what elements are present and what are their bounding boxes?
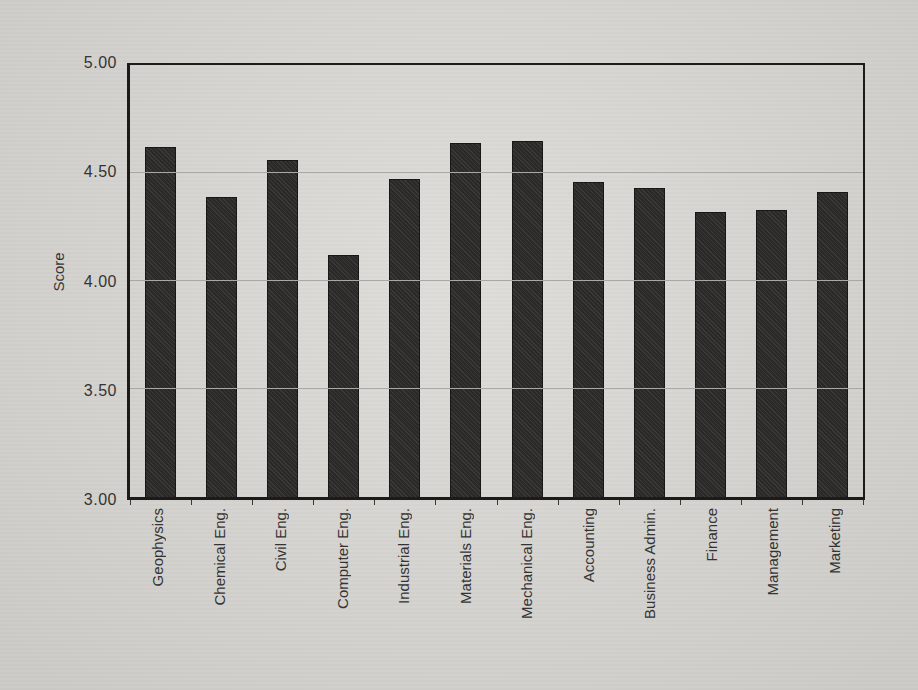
- x-axis-label: Marketing: [827, 508, 842, 574]
- y-tick-label: 5.00: [84, 54, 117, 72]
- bar-slot: [802, 65, 863, 497]
- y-tick-label: 4.00: [84, 273, 117, 291]
- x-axis-label: Industrial Eng.: [396, 508, 411, 604]
- bar-computer-eng: [328, 255, 359, 497]
- x-axis-tick: [558, 500, 559, 505]
- bar-slot: [435, 65, 496, 497]
- x-axis-label: Business Admin.: [642, 508, 657, 619]
- bar-finance: [695, 212, 726, 497]
- x-axis-label: Finance: [704, 508, 719, 561]
- gridline: [130, 280, 863, 281]
- gridline: [130, 388, 863, 389]
- x-axis-tick: [863, 500, 864, 505]
- bar-accounting: [573, 182, 604, 497]
- bar-materials-eng: [450, 143, 481, 497]
- x-axis-label: Civil Eng.: [273, 508, 288, 571]
- x-axis-tick: [619, 500, 620, 505]
- x-axis-label: Management: [765, 508, 780, 596]
- bar-geophysics: [145, 147, 176, 497]
- x-axis-tick: [191, 500, 192, 505]
- x-axis-tick: [313, 500, 314, 505]
- x-axis-tick: [374, 500, 375, 505]
- bar-slot: [252, 65, 313, 497]
- bar-slot: [741, 65, 802, 497]
- y-tick-label: 4.50: [84, 163, 117, 181]
- x-label-slot: Computer Eng.: [312, 508, 374, 673]
- bar-civil-eng: [267, 160, 298, 497]
- bar-business-admin: [634, 188, 665, 497]
- x-axis-label: Accounting: [581, 508, 596, 582]
- x-label-slot: Marketing: [804, 508, 866, 673]
- y-tick-label: 3.50: [84, 382, 117, 400]
- y-tick-label: 3.00: [84, 491, 117, 509]
- bar-chemical-eng: [206, 197, 237, 497]
- x-label-slot: Industrial Eng.: [373, 508, 435, 673]
- x-axis-label: Materials Eng.: [458, 508, 473, 604]
- x-label-slot: Management: [742, 508, 804, 673]
- x-label-slot: Accounting: [558, 508, 620, 673]
- x-label-slot: Finance: [681, 508, 743, 673]
- x-label-slot: Civil Eng.: [250, 508, 312, 673]
- bar-marketing: [817, 192, 848, 497]
- x-label-slot: Mechanical Eng.: [496, 508, 558, 673]
- bar-slot: [558, 65, 619, 497]
- plot-area: [127, 63, 865, 500]
- x-label-slot: Chemical Eng.: [189, 508, 251, 673]
- bar-slot: [313, 65, 374, 497]
- x-axis-tick: [802, 500, 803, 505]
- bar-slot: [191, 65, 252, 497]
- x-axis-label: Chemical Eng.: [212, 508, 227, 606]
- bar-slot: [374, 65, 435, 497]
- x-label-slot: Business Admin.: [619, 508, 681, 673]
- y-axis: 5.004.504.003.503.00: [55, 63, 117, 500]
- bar-industrial-eng: [389, 179, 420, 497]
- bar-slot: [496, 65, 557, 497]
- gridline: [130, 172, 863, 173]
- x-label-slot: Geophysics: [127, 508, 189, 673]
- x-axis-label: Computer Eng.: [335, 508, 350, 609]
- scanned-page-background: Score 5.004.504.003.503.00 GeophysicsChe…: [0, 0, 918, 690]
- x-axis-tick: [435, 500, 436, 505]
- bar-mechanical-eng: [512, 141, 543, 497]
- x-axis-tick: [130, 500, 131, 505]
- x-axis-tick: [680, 500, 681, 505]
- x-axis-tick: [252, 500, 253, 505]
- bar-series: [130, 65, 863, 497]
- x-axis-label: Geophysics: [150, 508, 165, 586]
- bar-slot: [619, 65, 680, 497]
- x-axis-label: Mechanical Eng.: [519, 508, 534, 619]
- bar-slot: [680, 65, 741, 497]
- x-axis: GeophysicsChemical Eng.Civil Eng.Compute…: [127, 508, 865, 673]
- x-axis-tick: [741, 500, 742, 505]
- bar-management: [756, 210, 787, 497]
- bar-slot: [130, 65, 191, 497]
- x-label-slot: Materials Eng.: [435, 508, 497, 673]
- x-axis-tick: [497, 500, 498, 505]
